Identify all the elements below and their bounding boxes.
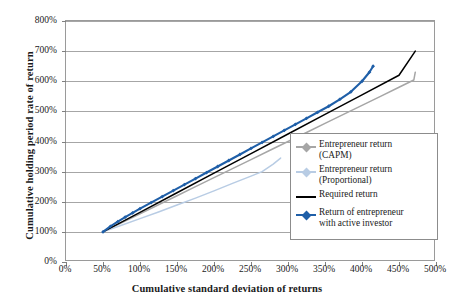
chart-legend: Entrepreneur return (CAPM)Entrepreneur r… [290,133,438,240]
x-axis-title: Cumulative standard deviation of returns [0,283,454,294]
legend-marker-icon [302,167,312,177]
y-axis-tick-label: 600% [35,75,57,85]
legend-item-label: Entrepreneur return (CAPM) [319,139,392,160]
y-axis-tick-label: 100% [35,226,57,236]
legend-marker-icon [302,142,312,152]
x-axis-tick-labels: 0%50%100%150%200%250%300%350%400%450%500… [65,263,435,279]
x-axis-tick-label: 500% [424,264,446,274]
x-axis-tick-label: 350% [313,264,335,274]
x-axis-tick-label: 450% [387,264,409,274]
y-axis-tick-labels: 0%100%200%300%400%500%600%700%800% [0,20,62,261]
x-axis-tick-label: 300% [276,264,298,274]
legend-line-swatch [296,196,316,198]
x-axis-tick-label: 400% [350,264,372,274]
x-axis-tick-label: 100% [128,264,150,274]
x-axis-tick-label: 250% [239,264,261,274]
series-line [103,158,281,232]
y-axis-tick-label: 800% [35,15,57,25]
legend-item-label: Return of entrepreneur with active inves… [319,207,404,228]
legend-item[interactable]: Entrepreneur return (Proportional) [296,164,433,185]
legend-item[interactable]: Required return [296,189,433,203]
chart-container: Cumulative holding period rate of return… [0,0,454,303]
legend-key-icon [296,192,316,203]
y-axis-tick-label: 0% [44,256,57,266]
x-axis-tick-label: 50% [93,264,110,274]
legend-item[interactable]: Return of entrepreneur with active inves… [296,207,433,228]
y-axis-tick-label: 300% [35,166,57,176]
y-axis-tick-label: 500% [35,105,57,115]
legend-key-icon [296,142,316,153]
y-axis-tick-label: 400% [35,136,57,146]
legend-marker-icon [302,210,312,220]
legend-key-icon [296,167,316,178]
legend-key-icon [296,210,316,221]
x-axis-tick-label: 0% [59,264,72,274]
legend-item-label: Entrepreneur return (Proportional) [319,164,392,185]
x-axis-tick-label: 150% [165,264,187,274]
legend-item[interactable]: Entrepreneur return (CAPM) [296,139,433,160]
y-axis-tick-label: 200% [35,196,57,206]
x-axis-tick-label: 200% [202,264,224,274]
y-axis-tick-label: 700% [35,45,57,55]
series-entrepreneur-return-proportional [103,158,281,232]
legend-item-label: Required return [319,189,378,200]
